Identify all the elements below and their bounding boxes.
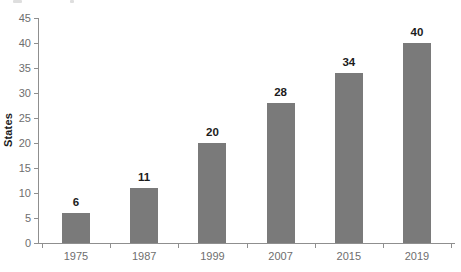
y-tick-label: 20 bbox=[5, 137, 31, 149]
states-bar-chart-figure: States 051015202530354045619751119872019… bbox=[0, 0, 461, 272]
y-tick-label: 45 bbox=[5, 12, 31, 24]
bar-value-label: 6 bbox=[56, 196, 96, 208]
y-tick-label: 0 bbox=[5, 237, 31, 249]
bar-value-label: 20 bbox=[192, 126, 232, 138]
bar-2015 bbox=[335, 73, 363, 243]
bar-2007 bbox=[267, 103, 295, 243]
y-tick-mark bbox=[34, 18, 38, 19]
y-tick-label: 25 bbox=[5, 112, 31, 124]
x-tick-label: 2007 bbox=[251, 250, 311, 262]
x-tick-label: 1975 bbox=[46, 250, 106, 262]
x-tick-label: 2015 bbox=[319, 250, 379, 262]
y-tick-mark bbox=[34, 168, 38, 169]
bar-1999 bbox=[198, 143, 226, 243]
y-tick-mark bbox=[34, 68, 38, 69]
y-axis-line bbox=[38, 18, 39, 244]
bar-value-label: 40 bbox=[397, 26, 437, 38]
y-tick-mark bbox=[34, 193, 38, 194]
y-tick-label: 15 bbox=[5, 162, 31, 174]
x-tick-mark bbox=[383, 244, 384, 248]
bar-value-label: 34 bbox=[329, 56, 369, 68]
y-tick-label: 10 bbox=[5, 187, 31, 199]
bar-1975 bbox=[62, 213, 90, 243]
x-tick-mark bbox=[451, 244, 452, 248]
cropped-text-artifact bbox=[70, 0, 74, 3]
cropped-text-artifact bbox=[13, 0, 22, 3]
y-tick-label: 5 bbox=[5, 212, 31, 224]
bar-value-label: 28 bbox=[261, 86, 301, 98]
bar-1987 bbox=[130, 188, 158, 243]
bar-2019 bbox=[403, 43, 431, 243]
y-tick-mark bbox=[34, 243, 38, 244]
bar-value-label: 11 bbox=[124, 171, 164, 183]
x-tick-label: 1987 bbox=[114, 250, 174, 262]
x-tick-mark bbox=[315, 244, 316, 248]
plot-area: 0510152025303540456197511198720199928200… bbox=[38, 18, 453, 243]
y-tick-label: 30 bbox=[5, 87, 31, 99]
x-tick-mark bbox=[247, 244, 248, 248]
y-tick-mark bbox=[34, 218, 38, 219]
x-tick-label: 2019 bbox=[387, 250, 447, 262]
x-tick-label: 1999 bbox=[182, 250, 242, 262]
x-tick-mark bbox=[42, 244, 43, 248]
x-tick-mark bbox=[178, 244, 179, 248]
x-tick-mark bbox=[110, 244, 111, 248]
y-tick-mark bbox=[34, 143, 38, 144]
y-tick-mark bbox=[34, 93, 38, 94]
y-tick-label: 35 bbox=[5, 62, 31, 74]
y-tick-label: 40 bbox=[5, 37, 31, 49]
y-tick-mark bbox=[34, 118, 38, 119]
y-tick-mark bbox=[34, 43, 38, 44]
